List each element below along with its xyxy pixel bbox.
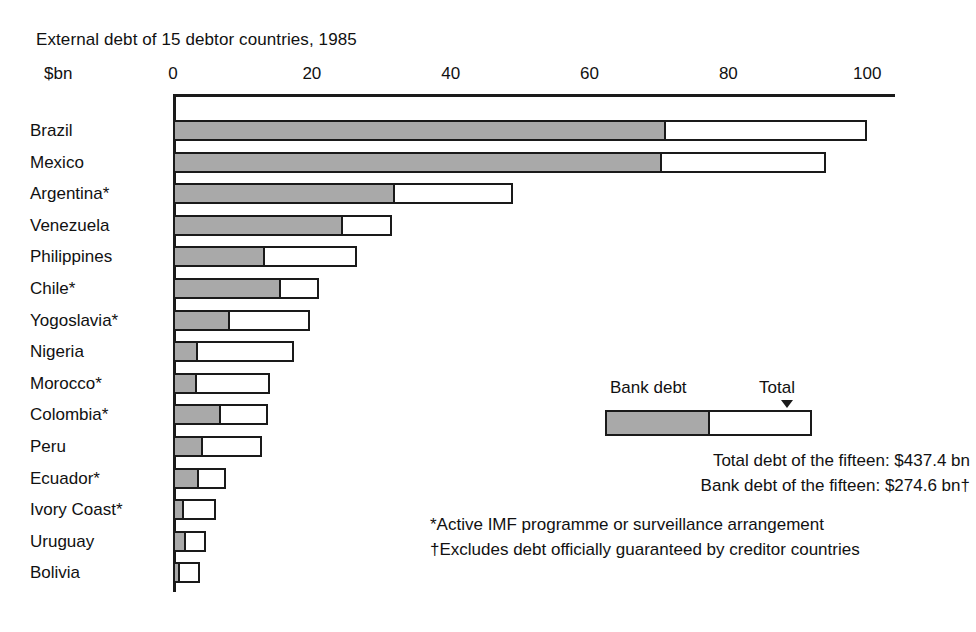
bar-bank-debt-argentina [173,183,395,204]
footnote-line-2: †Excludes debt officially guaranteed by … [430,537,976,562]
bar-bank-debt-colombia [173,404,221,425]
bar-bank-debt-mexico [173,152,662,173]
legend-swatch-total [605,410,812,436]
bar-row-bolivia [173,562,200,583]
bar-bank-debt-nigeria [173,341,198,362]
bar-row-brazil [173,120,867,141]
bar-bank-debt-venezuela [173,215,343,236]
legend-total-arrow-icon [781,400,793,408]
summary-totals: Total debt of the fifteen: $437.4 bnBank… [430,448,970,498]
legend-total-label: Total [759,378,795,398]
bar-row-venezuela [173,215,392,236]
bar-row-mexico [173,152,826,173]
bar-row-colombia [173,404,268,425]
bar-bank-debt-morocco [173,373,197,394]
bar-row-nigeria [173,341,294,362]
bar-row-morocco [173,373,270,394]
bar-bank-debt-yogoslavia [173,310,230,331]
bar-bank-debt-philippines [173,246,265,267]
bar-row-chile [173,278,319,299]
bar-bank-debt-uruguay [173,531,186,552]
bar-row-philippines [173,246,357,267]
bar-row-ivorycoast [173,499,216,520]
bar-row-argentina [173,183,513,204]
legend-swatch-bank-debt [607,412,710,434]
bar-row-uruguay [173,531,206,552]
bar-bank-debt-ivorycoast [173,499,184,520]
chart-legend: Bank debt Total [604,378,834,448]
bar-row-peru [173,436,262,457]
bar-bank-debt-chile [173,278,281,299]
summary-line-1: Total debt of the fifteen: $437.4 bn [430,448,970,473]
bar-bank-debt-bolivia [173,562,180,583]
footnote-line-1: *Active IMF programme or surveillance ar… [430,512,976,537]
bar-bank-debt-peru [173,436,203,457]
bar-bank-debt-ecuador [173,468,199,489]
summary-line-2: Bank debt of the fifteen: $274.6 bn† [430,473,970,498]
legend-bank-debt-label: Bank debt [610,378,687,398]
bar-row-ecuador [173,468,226,489]
debt-bar-chart: External debt of 15 debtor countries, 19… [0,0,976,632]
bar-row-yogoslavia [173,310,310,331]
footnotes: *Active IMF programme or surveillance ar… [430,512,976,562]
bar-bank-debt-brazil [173,120,666,141]
